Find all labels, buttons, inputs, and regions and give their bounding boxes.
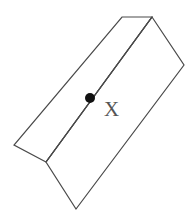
point-x-marker xyxy=(85,93,95,103)
prism-diagram: X xyxy=(0,0,185,222)
ridge-line xyxy=(46,17,152,162)
point-x-label: X xyxy=(104,97,119,121)
left-face xyxy=(14,17,152,162)
